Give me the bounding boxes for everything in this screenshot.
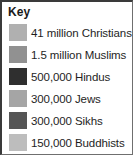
color-swatch-icon — [9, 112, 27, 129]
legend-entry-label: 41 million Christians — [31, 22, 132, 44]
legend-entry-hindus: 500,000 Hindus — [2, 66, 132, 88]
legend-entry-buddhists: 150,000 Buddhists — [2, 132, 132, 154]
legend-entry-muslims: 1.5 million Muslims — [2, 44, 132, 66]
legend-entry-sikhs: 300,000 Sikhs — [2, 110, 132, 132]
legend-entry-label: 150,000 Buddhists — [31, 132, 125, 154]
color-swatch-icon — [9, 68, 27, 85]
legend-entry-label: 300,000 Jews — [31, 88, 101, 110]
legend-entry-label: 500,000 Hindus — [31, 66, 110, 88]
legend-title: Key — [8, 5, 30, 19]
legend-entry-christians: 41 million Christians — [2, 22, 132, 44]
color-swatch-icon — [9, 134, 27, 151]
legend-panel: Key 41 million Christians 1.5 million Mu… — [0, 0, 133, 155]
legend-entry-list: 41 million Christians 1.5 million Muslim… — [2, 22, 132, 154]
legend-entry-label: 1.5 million Muslims — [31, 44, 126, 66]
color-swatch-icon — [9, 24, 27, 41]
color-swatch-icon — [9, 46, 27, 63]
color-swatch-icon — [9, 90, 27, 107]
legend-entry-jews: 300,000 Jews — [2, 88, 132, 110]
legend-entry-label: 300,000 Sikhs — [31, 110, 103, 132]
